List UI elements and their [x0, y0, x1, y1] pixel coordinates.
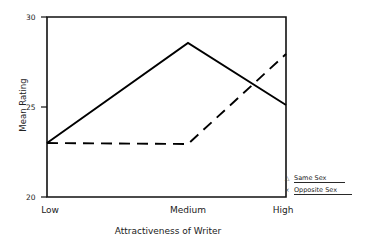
legend-label-opposite-sex: Opposite Sex	[294, 186, 337, 194]
chart-legend: △ Same Sex × Opposite Sex	[284, 174, 352, 195]
legend-marker-triangle-icon: △	[285, 174, 290, 181]
series-same-sex-line	[47, 43, 286, 143]
legend-label-same-sex: Same Sex	[294, 174, 327, 182]
x-axis-categories: Low Medium High	[41, 205, 293, 215]
y-tick-label-30: 30	[26, 13, 36, 22]
x-category-high: High	[273, 205, 294, 215]
y-axis-ticks: 30 25 20	[26, 13, 47, 202]
line-chart: 30 25 20 Mean Rating Low Medium High Att…	[0, 0, 366, 248]
x-category-low: Low	[41, 205, 59, 215]
x-category-medium: Medium	[170, 205, 206, 215]
y-axis-title: Mean Rating	[18, 78, 28, 131]
x-axis-title: Attractiveness of Writer	[115, 226, 222, 236]
chart-figure: 30 25 20 Mean Rating Low Medium High Att…	[0, 0, 366, 248]
legend-marker-x-icon: ×	[284, 186, 289, 193]
series-opposite-sex-line	[47, 54, 286, 144]
plot-frame	[47, 17, 286, 197]
y-tick-label-20: 20	[26, 193, 36, 202]
